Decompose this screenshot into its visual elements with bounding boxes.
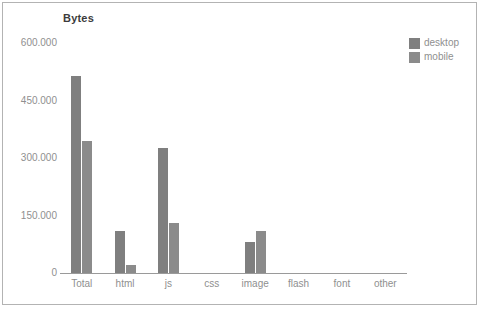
- y-axis-tick-label: 450.000: [0, 95, 57, 107]
- bar-desktop-image: [245, 242, 255, 273]
- chart-title: Bytes: [63, 12, 94, 24]
- x-axis-category-label: js: [147, 278, 190, 290]
- y-axis-tick-label: 150.000: [0, 210, 57, 222]
- bytes-bar-chart: Bytes 0150.000300.000450.000600.000Total…: [0, 0, 482, 312]
- x-axis-category-label: other: [364, 278, 407, 290]
- x-axis-category-label: Total: [60, 278, 103, 290]
- bar-desktop-html: [115, 231, 125, 273]
- bar-mobile-image: [256, 231, 266, 273]
- legend-swatch-desktop: [409, 38, 420, 49]
- x-axis-category-label: html: [103, 278, 146, 290]
- y-axis-tick-label: 600.000: [0, 37, 57, 49]
- bar-mobile-Total: [82, 141, 92, 273]
- bar-mobile-html: [126, 265, 136, 273]
- x-axis-category-label: font: [320, 278, 363, 290]
- legend-label-mobile: mobile: [424, 51, 453, 63]
- x-axis-category-label: css: [190, 278, 233, 290]
- bar-desktop-js: [158, 148, 168, 273]
- bar-desktop-Total: [71, 76, 81, 273]
- x-axis-category-label: flash: [277, 278, 320, 290]
- y-axis-tick-label: 0: [0, 267, 57, 279]
- legend-swatch-mobile: [409, 52, 420, 63]
- legend-label-desktop: desktop: [424, 37, 459, 49]
- x-axis-category-label: image: [234, 278, 277, 290]
- bar-mobile-js: [169, 223, 179, 273]
- y-axis-tick-label: 300.000: [0, 152, 57, 164]
- x-axis-line: [60, 273, 407, 274]
